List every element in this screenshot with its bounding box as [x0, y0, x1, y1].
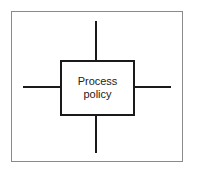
process-policy-label: Process policy — [78, 75, 118, 101]
connector-bottom — [95, 115, 97, 153]
process-policy-node: Process policy — [60, 60, 135, 116]
connector-right — [134, 86, 171, 88]
connector-top — [95, 21, 97, 61]
connector-left — [23, 86, 61, 88]
